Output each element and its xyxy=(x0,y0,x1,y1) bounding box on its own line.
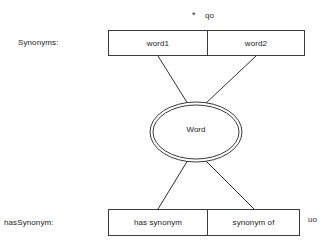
connector-word-to-synonym-of xyxy=(205,160,254,209)
relation-box-hassynonym: has synonym synonym of xyxy=(108,209,300,236)
connector-word-to-has-synonym xyxy=(158,160,188,209)
box-cell-has-synonym: has synonym xyxy=(109,210,208,235)
diagram-canvas: * qo uo Synonyms: hasSynonym: Word word1… xyxy=(0,0,334,247)
relation-box-synonyms: word1 word2 xyxy=(108,30,305,56)
connector-word2-to-word xyxy=(205,56,256,104)
connector-word1-to-word xyxy=(158,56,188,104)
box-cell-word2: word2 xyxy=(208,31,304,55)
box-cell-word1: word1 xyxy=(109,31,208,55)
entity-label-word: Word xyxy=(150,125,242,134)
box-cell-synonym-of: synonym of xyxy=(208,210,299,235)
